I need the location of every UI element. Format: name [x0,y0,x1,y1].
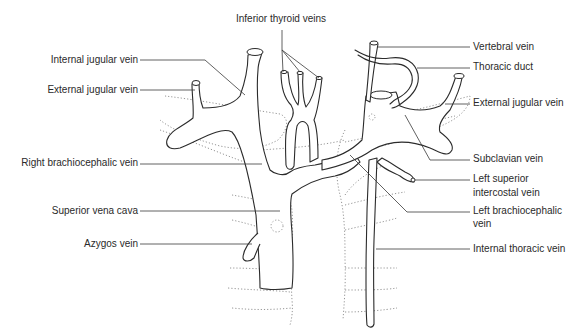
leader-inferior-thyroid [282,30,319,78]
label-superior-vena-cava: Superior vena cava [52,205,138,217]
left-internal-thoracic-vein [366,158,377,327]
left-ejv-opening [454,74,464,79]
label-left-brachiocephalic-line2: vein [473,218,491,230]
azygos-vein-stub [243,233,260,261]
label-right-brachiocephalic-vein: Right brachiocephalic vein [21,157,138,169]
thyroid-vein-opening-1 [281,70,287,73]
label-vertebral-vein: Vertebral vein [473,41,534,53]
label-left-superior-intercostal-line2: intercostal vein [473,187,540,199]
right-veins [167,49,360,290]
label-left-brachiocephalic-line1: Left brachiocephalic [473,205,562,217]
left-superior-intercostal-vein [377,158,414,182]
label-internal-jugular-vein: Internal jugular vein [51,54,138,66]
inferior-thyroid-vein-pair [281,72,322,169]
left-venous-trunk [322,76,462,170]
right-ejv-opening [192,81,200,86]
left-veins [322,41,464,327]
inferior-thyroid-veins [281,70,322,169]
manubrium-top [260,140,345,150]
left-ijv-opening [370,91,392,99]
label-subclavian-vein: Subclavian vein [473,153,543,165]
right-venous-trunk [167,52,360,290]
label-internal-thoracic-vein: Internal thoracic vein [473,243,565,255]
right-ijv-opening [247,49,263,56]
right-rib-6 [232,308,292,310]
label-left-superior-intercostal-line1: Left superior [473,173,529,185]
intercostal-vein-opening [411,178,415,182]
label-external-jugular-vein-right: External jugular vein [47,84,138,96]
label-azygos-vein: Azygos vein [84,238,138,250]
vein-diagram: Inferior thyroid veins Internal jugular … [0,0,587,333]
label-external-jugular-vein-left: External jugular vein [473,97,564,109]
label-inferior-thyroid-veins: Inferior thyroid veins [236,13,326,25]
label-thoracic-duct: Thoracic duct [473,61,533,73]
vertebral-vein-opening [370,41,378,45]
